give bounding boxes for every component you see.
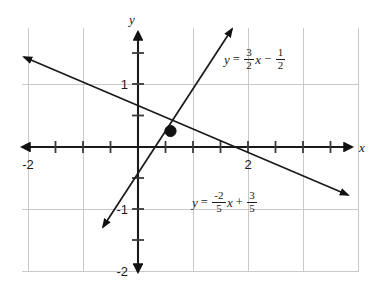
- equation-rising-variable: x: [255, 53, 261, 66]
- equation-declining-intercept-numerator: 3: [247, 190, 257, 203]
- equation-rising-intercept-numerator: 1: [276, 47, 286, 60]
- equation-declining-variable: x: [227, 196, 233, 209]
- intersection-point: [165, 125, 176, 136]
- y-tick-label-neg2: -2: [116, 264, 128, 279]
- equation-declining-slope-numerator: -2: [212, 190, 225, 203]
- equation-declining-slope-denominator: 5: [214, 203, 224, 215]
- equation-rising-operator: −: [264, 53, 271, 66]
- equation-rising-equals: =: [233, 53, 240, 66]
- y-tick-label-1: 1: [121, 77, 128, 92]
- y-axis-label: y: [127, 12, 135, 27]
- equation-declining-equals: =: [201, 196, 208, 209]
- y-tick-label-neg1: -1: [116, 202, 128, 217]
- equation-rising-slope-fraction: 3 2: [244, 47, 254, 71]
- coordinate-plane-svg: y x -2 2 1 -1 -2: [0, 0, 381, 281]
- equation-rising-slope-numerator: 3: [244, 47, 254, 60]
- equation-rising-intercept-fraction: 1 2: [276, 47, 286, 71]
- x-axis-label: x: [358, 140, 365, 155]
- equation-declining-intercept-denominator: 5: [247, 203, 257, 215]
- line-declining: [24, 57, 348, 195]
- x-tick-label-2: 2: [244, 157, 251, 172]
- equation-declining-intercept-fraction: 3 5: [247, 190, 257, 214]
- equation-rising-intercept-denominator: 2: [276, 60, 286, 72]
- equation-declining-slope-fraction: -2 5: [212, 190, 225, 214]
- equation-declining-operator: +: [236, 196, 243, 209]
- equation-label-rising: y = 3 2 x − 1 2: [224, 47, 287, 71]
- x-tick-label-neg2: -2: [22, 157, 34, 172]
- graph-figure: y x -2 2 1 -1 -2 y = 3 2 x − 1 2 y = -2 …: [0, 0, 381, 281]
- equation-label-declining: y = -2 5 x + 3 5: [192, 190, 258, 214]
- equation-rising-lhs: y: [224, 53, 230, 66]
- equation-rising-slope-denominator: 2: [244, 60, 254, 72]
- equation-declining-lhs: y: [192, 196, 198, 209]
